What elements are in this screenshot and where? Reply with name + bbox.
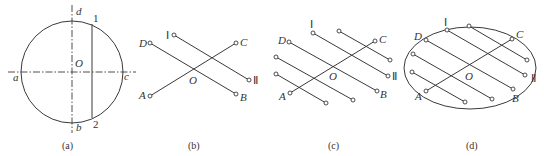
label-a: A <box>138 89 146 101</box>
label-c: C <box>379 33 387 45</box>
point-mid-right <box>351 98 355 102</box>
label-b: b <box>76 121 82 133</box>
label-center-o: O <box>465 70 473 82</box>
caption-a: (a) <box>62 140 73 152</box>
point-ii <box>247 78 251 82</box>
label-b: B <box>240 91 247 103</box>
line-ac <box>290 41 375 93</box>
label-ii: Ⅱ <box>392 70 397 82</box>
label-center-o: O <box>329 70 337 82</box>
parallel-line-mid <box>276 57 353 100</box>
point-i <box>172 33 176 37</box>
point-mid-left <box>411 52 415 56</box>
label-b: B <box>512 92 519 104</box>
point-c <box>373 39 377 43</box>
caption-c: (c) <box>328 140 339 152</box>
label-a: A <box>278 90 286 102</box>
label-d: D <box>138 37 147 49</box>
panel-d: A C D B Ⅰ Ⅱ O (d) <box>404 16 536 152</box>
point-c <box>234 41 238 45</box>
panel-a: d a c b O 1 2 (a) <box>8 5 136 152</box>
point-d <box>148 41 152 45</box>
point-b <box>234 92 238 96</box>
point-mid-left <box>274 55 278 59</box>
point-i <box>311 31 315 35</box>
point-i <box>445 28 449 32</box>
label-d: D <box>277 34 286 46</box>
label-c: C <box>240 36 248 48</box>
panel-c: A C D B Ⅰ Ⅱ O (c) <box>274 18 397 152</box>
point-a <box>288 91 292 95</box>
point-bottom-right <box>463 100 467 104</box>
label-center-o: O <box>75 57 83 69</box>
point-ii <box>523 73 527 77</box>
point-c <box>510 37 514 41</box>
figure-canvas: d a c b O 1 2 (a) A C D B Ⅰ Ⅱ O (b) <box>0 0 544 156</box>
point-mid-right <box>490 97 494 101</box>
point-d <box>287 40 291 44</box>
point-b <box>375 89 379 93</box>
panel-b: A C D B Ⅰ Ⅱ O (b) <box>138 29 258 152</box>
label-ii: Ⅱ <box>531 72 536 84</box>
line-db <box>289 42 377 91</box>
point-top-left <box>467 24 471 28</box>
label-c: c <box>124 70 129 82</box>
point-top-right <box>525 58 529 62</box>
point-ii <box>386 74 390 78</box>
caption-b: (b) <box>188 140 200 152</box>
caption-d: (d) <box>466 140 478 152</box>
label-i: Ⅰ <box>166 29 169 41</box>
label-i: Ⅰ <box>310 18 313 30</box>
label-center-o: O <box>189 74 197 86</box>
label-b: B <box>380 88 387 100</box>
point-bottom-left <box>274 72 278 76</box>
label-d: d <box>76 5 82 17</box>
point-bottom-right <box>324 101 328 105</box>
label-a: A <box>414 90 422 102</box>
point-a <box>424 89 428 93</box>
point-a <box>148 94 152 98</box>
label-i: Ⅰ <box>444 16 447 28</box>
label-ii: Ⅱ <box>253 74 258 86</box>
label-d: D <box>413 30 422 42</box>
label-c: C <box>516 28 524 40</box>
point-bottom-left <box>410 70 414 74</box>
point-top-left <box>337 29 341 33</box>
point-top-right <box>388 58 392 62</box>
label-point-2: 2 <box>93 118 99 130</box>
label-a: a <box>13 71 19 83</box>
point-b <box>511 87 515 91</box>
point-d <box>424 38 428 42</box>
label-point-1: 1 <box>93 12 99 24</box>
